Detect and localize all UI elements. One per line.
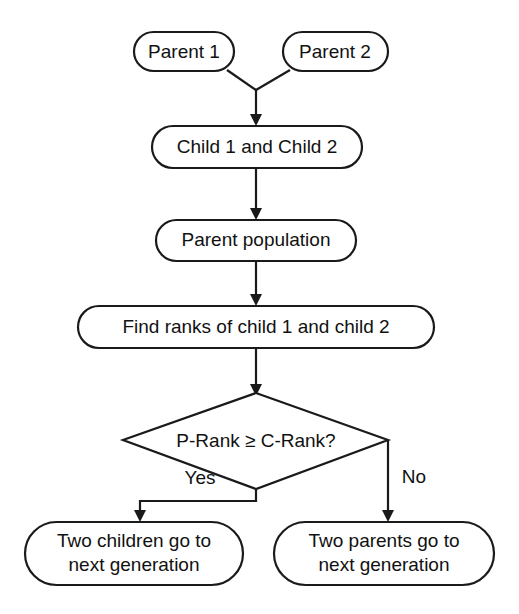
node-find-ranks[interactable]: Find ranks of child 1 and child 2	[78, 306, 434, 348]
edge-parent1-diagonal	[227, 70, 256, 90]
node-find-ranks-label: Find ranks of child 1 and child 2	[122, 316, 389, 337]
node-parent-1[interactable]: Parent 1	[134, 32, 234, 71]
node-children-label: Child 1 and Child 2	[177, 136, 338, 157]
node-parent-population-label: Parent population	[182, 229, 331, 250]
arrowhead-to-children	[250, 114, 262, 126]
node-parent-1-label: Parent 1	[148, 41, 220, 62]
node-children-next-generation[interactable]: Two children go to next generation	[25, 522, 243, 585]
node-parent-2[interactable]: Parent 2	[283, 32, 388, 71]
arrowhead-no	[382, 510, 394, 522]
flowchart-svg: Parent 1 Parent 2 Child 1 and Child 2 Pa…	[0, 0, 519, 614]
node-parents-next-generation-label-line1: Two parents go to	[308, 530, 459, 551]
node-parents-next-generation-label-line2: next generation	[319, 554, 450, 575]
arrowhead-to-findranks	[250, 294, 262, 306]
flowchart-canvas: Parent 1 Parent 2 Child 1 and Child 2 Pa…	[0, 0, 519, 614]
edge-findranks-to-decision	[250, 348, 262, 396]
edge-label-no: No	[402, 466, 426, 487]
node-children-next-generation-label-line1: Two children go to	[57, 530, 211, 551]
edge-children-to-population	[250, 168, 262, 220]
node-parents-next-generation[interactable]: Two parents go to next generation	[274, 522, 494, 585]
edge-no-branch	[382, 440, 394, 522]
edge-yes-branch	[134, 489, 256, 522]
edge-line-yes	[140, 489, 256, 514]
node-parent-population[interactable]: Parent population	[156, 220, 356, 261]
node-decision[interactable]: P-Rank ≥ C-Rank?	[123, 393, 388, 489]
edge-parent2-diagonal	[256, 70, 290, 90]
edge-population-to-findranks	[250, 261, 262, 306]
node-children-next-generation-label-line2: next generation	[69, 554, 200, 575]
arrowhead-yes	[134, 510, 146, 522]
node-decision-label: P-Rank ≥ C-Rank?	[176, 430, 335, 451]
edge-label-yes: Yes	[185, 467, 216, 488]
node-parent-2-label: Parent 2	[299, 41, 371, 62]
edge-parents-to-children	[227, 70, 290, 126]
node-children[interactable]: Child 1 and Child 2	[152, 126, 362, 168]
arrowhead-to-population	[250, 208, 262, 220]
